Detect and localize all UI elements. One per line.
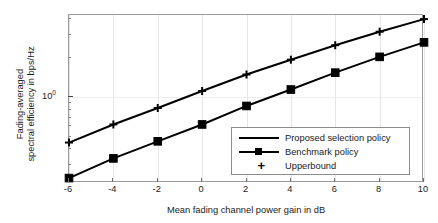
data-point-marker-square xyxy=(154,138,162,146)
x-tick-label: 0 xyxy=(186,184,216,194)
x-tick-mark xyxy=(68,178,69,182)
x-tick-mark xyxy=(201,178,202,182)
legend-item: Proposed selection policy xyxy=(237,131,404,145)
series-line xyxy=(69,19,424,142)
y-axis-title-line1: Fading-averaged xyxy=(15,69,27,139)
y-tick-mark-minor xyxy=(68,34,71,35)
x-tick-label: 4 xyxy=(275,184,305,194)
y-tick-mark-minor xyxy=(68,148,71,149)
figure: Fading-averaged spectral efficiency in b… xyxy=(0,0,438,223)
data-point-marker-plus xyxy=(243,71,251,79)
x-tick-mark xyxy=(379,178,380,182)
y-tick-mark-major xyxy=(68,96,73,97)
y-tick-mark-minor xyxy=(68,109,71,110)
x-tick-label: -6 xyxy=(53,184,83,194)
y-tick-mark-minor xyxy=(68,102,71,103)
x-tick-label: -2 xyxy=(142,184,172,194)
legend-label: Proposed selection policy xyxy=(281,133,390,143)
data-point-marker-square xyxy=(287,86,295,94)
x-tick-label: 8 xyxy=(364,184,394,194)
x-tick-label: 6 xyxy=(319,184,349,194)
y-tick-mark-minor xyxy=(68,57,71,58)
legend-item: + Upperbound xyxy=(237,159,404,173)
data-point-marker-square xyxy=(110,155,118,163)
y-axis-title-line2: spectral efficiency in bps/Hz xyxy=(26,46,38,161)
data-point-marker-plus xyxy=(331,41,339,49)
data-point-marker-square xyxy=(243,102,251,110)
y-axis-title: Fading-averaged spectral efficiency in b… xyxy=(11,14,41,194)
y-tick-mark-minor xyxy=(68,136,71,137)
y-tick-mark-minor xyxy=(68,18,71,19)
x-tick-label: -4 xyxy=(97,184,127,194)
data-point-marker-plus xyxy=(109,120,117,128)
x-axis-title: Mean fading channel power gain in dB xyxy=(68,205,424,215)
legend-item: Benchmark policy xyxy=(237,145,404,159)
data-point-marker-plus xyxy=(287,56,295,64)
data-point-marker-square xyxy=(198,121,206,129)
data-point-marker-plus xyxy=(198,87,206,95)
legend: Proposed selection policy Benchmark poli… xyxy=(231,127,410,175)
data-point-marker-plus xyxy=(65,139,73,147)
legend-symbol-line-square xyxy=(237,145,281,159)
data-point-marker-square xyxy=(420,39,428,47)
legend-label: Upperbound xyxy=(281,161,336,171)
x-tick-mark xyxy=(246,178,247,182)
x-tick-label: 2 xyxy=(231,184,261,194)
y-tick-mark-minor xyxy=(68,125,71,126)
x-tick-mark xyxy=(423,178,424,182)
legend-label: Benchmark policy xyxy=(281,147,358,157)
data-point-marker-plus xyxy=(154,104,162,112)
x-tick-mark xyxy=(112,178,113,182)
y-tick-mark-minor xyxy=(68,164,71,165)
data-point-marker-plus xyxy=(420,15,428,23)
y-tick-label: 100 xyxy=(42,89,56,101)
data-point-marker-square xyxy=(376,53,384,61)
legend-symbol-plus-icon: + xyxy=(237,159,281,173)
legend-symbol-line xyxy=(237,131,281,145)
data-point-marker-square xyxy=(331,69,339,77)
data-point-marker-plus xyxy=(376,28,384,36)
x-tick-label: 10 xyxy=(408,184,438,194)
x-tick-mark xyxy=(157,178,158,182)
x-tick-mark xyxy=(290,178,291,182)
y-tick-mark-minor xyxy=(68,117,71,118)
x-tick-mark xyxy=(334,178,335,182)
data-point-marker-square xyxy=(65,174,73,182)
